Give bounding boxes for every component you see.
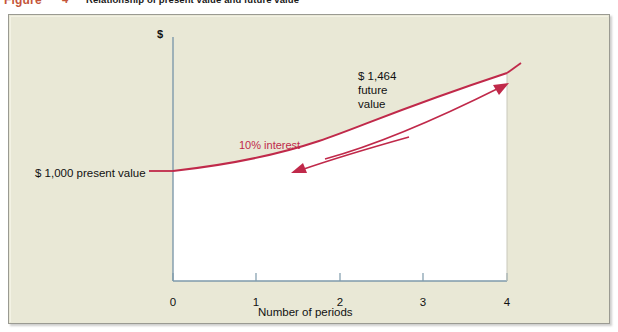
chart-plot-area: $ $ 1,000 present value $ 1,464 future v… <box>9 15 611 325</box>
future-value-word-future: future <box>358 83 396 97</box>
future-value-leader-line <box>507 63 521 73</box>
figure-panel: $ $ 1,000 present value $ 1,464 future v… <box>8 14 610 324</box>
present-value-annotation: $ 1,000 present value <box>35 167 146 179</box>
x-axis-label: Number of periods <box>258 306 353 318</box>
figure-caption-label: Figure <box>4 0 42 7</box>
future-value-word-value: value <box>358 97 396 111</box>
figure-caption-title: Relationship of present value and future… <box>86 0 299 5</box>
y-axis-label: $ <box>157 28 163 40</box>
figure-caption: Figure 4 Relationship of present value a… <box>0 0 618 7</box>
x-tick-label-0: 0 <box>163 296 183 308</box>
x-tick-label-3: 3 <box>413 296 433 308</box>
future-value-amount: $ 1,464 <box>358 69 396 83</box>
interest-rate-annotation: 10% interest <box>239 139 300 151</box>
area-under-curve <box>173 73 507 281</box>
figure-caption-number: 4 <box>62 0 68 5</box>
x-tick-label-4: 4 <box>497 296 517 308</box>
future-value-annotation: $ 1,464 future value <box>358 69 396 111</box>
